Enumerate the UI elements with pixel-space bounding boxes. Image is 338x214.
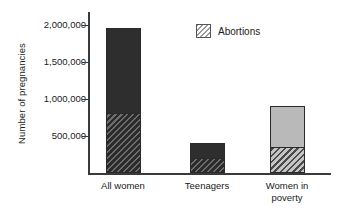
legend: Abortions xyxy=(196,24,260,38)
x-axis-line xyxy=(88,173,331,175)
bar-all-women-total-segment xyxy=(106,28,141,113)
x-category-label-teenagers-line-0: Teenagers xyxy=(161,180,253,192)
bar-teenagers-total-segment xyxy=(190,143,225,158)
bar-women-in-poverty-abortions-segment xyxy=(270,147,305,173)
y-tick-label-0: 2,000,000 xyxy=(24,20,86,30)
bar-teenagers[interactable] xyxy=(190,143,225,173)
y-tick-label-2: 1,000,000 xyxy=(24,94,86,104)
bar-women-in-poverty[interactable] xyxy=(270,106,305,173)
chart-container: Number of pregnancies 2,000,000 1,500,00… xyxy=(0,0,338,214)
y-tick-1: 1,500,000 xyxy=(24,57,86,67)
x-category-label-all-women: All women xyxy=(77,180,169,192)
bar-all-women-abortions-segment xyxy=(106,113,141,173)
y-tick-label-1: 1,500,000 xyxy=(24,57,86,67)
bar-all-women[interactable] xyxy=(106,28,141,173)
x-category-label-women-in-poverty-line-0: Women in xyxy=(241,180,333,192)
legend-label-abortions: Abortions xyxy=(218,26,260,37)
bar-teenagers-abortions-segment xyxy=(190,158,225,173)
bar-women-in-poverty-total-segment xyxy=(270,106,305,147)
y-tick-2: 1,000,000 xyxy=(24,94,86,104)
x-category-label-women-in-poverty: Women in poverty xyxy=(241,180,333,204)
x-category-label-all-women-line-0: All women xyxy=(77,180,169,192)
y-tick-label-3: 500,000 xyxy=(24,131,86,141)
y-axis-line xyxy=(88,12,90,174)
legend-swatch-abortions-icon xyxy=(196,24,211,38)
y-tick-0: 2,000,000 xyxy=(24,20,86,30)
y-tick-3: 500,000 xyxy=(24,131,86,141)
x-category-label-teenagers: Teenagers xyxy=(161,180,253,192)
x-category-label-women-in-poverty-line-1: poverty xyxy=(241,192,333,204)
